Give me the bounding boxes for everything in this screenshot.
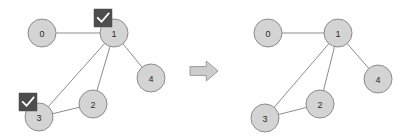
- selected-badge-left-node-1[interactable]: [94, 9, 112, 27]
- node-circle-right-1[interactable]: [324, 19, 352, 47]
- graph-node-right-2[interactable]: 2: [306, 90, 334, 118]
- node-circle-left-4[interactable]: [137, 64, 165, 92]
- graph-edge-right-1-2: [323, 47, 334, 91]
- selected-badge-left-node-3[interactable]: [19, 93, 37, 111]
- transition-arrow-group: [190, 61, 218, 81]
- graph-edge-right-2-3: [279, 107, 307, 114]
- graph-node-right-4[interactable]: 4: [364, 65, 392, 93]
- graph-diagram: 01234 01234: [0, 0, 414, 140]
- graph-edge-left-1-4: [123, 44, 142, 67]
- graph-node-right-1[interactable]: 1: [324, 19, 352, 47]
- node-circle-left-2[interactable]: [79, 90, 107, 118]
- node-circle-right-0[interactable]: [254, 19, 282, 47]
- graph-node-left-2[interactable]: 2: [79, 90, 107, 118]
- node-circle-right-3[interactable]: [251, 104, 279, 132]
- graph-node-right-3[interactable]: 3: [251, 104, 279, 132]
- graph-edge-left-1-2: [97, 46, 110, 90]
- node-circle-left-0[interactable]: [28, 19, 56, 47]
- left-graph-nodes: 01234: [25, 19, 165, 131]
- right-graph-nodes: 01234: [251, 19, 392, 132]
- graph-edge-right-1-4: [347, 44, 369, 69]
- graph-node-left-4[interactable]: 4: [137, 64, 165, 92]
- node-circle-right-2[interactable]: [306, 90, 334, 118]
- node-circle-right-4[interactable]: [364, 65, 392, 93]
- diagram-canvas: 01234 01234: [0, 0, 414, 140]
- graph-node-right-0[interactable]: 0: [254, 19, 282, 47]
- graph-node-left-0[interactable]: 0: [28, 19, 56, 47]
- arrow-right-icon: [190, 61, 218, 81]
- graph-edge-left-2-3: [53, 107, 80, 113]
